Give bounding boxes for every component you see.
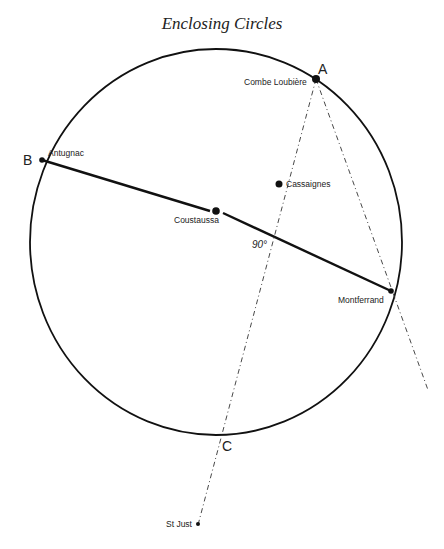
letter-a: A (318, 61, 328, 77)
label-coustaussa: Coustaussa (174, 215, 219, 225)
label-cassaignes: Cassaignes (286, 179, 330, 189)
angle-label: 90° (252, 239, 267, 250)
point-antugnac (39, 157, 45, 163)
line-a-to-montferrand (316, 79, 428, 390)
diameter-line-left (42, 160, 210, 211)
label-stjust: St Just (166, 519, 193, 529)
diameter-line-right (223, 213, 391, 291)
point-montferrand (388, 288, 394, 294)
label-montferrand: Montferrand (338, 295, 384, 305)
label-combe-loubiere: Combe Loubière (244, 77, 307, 87)
letter-c: C (222, 438, 232, 454)
diagram-canvas: A Combe Loubière B Antugnac Coustaussa C… (0, 0, 444, 549)
label-antugnac: Antugnac (48, 148, 85, 158)
line-a-to-stjust (198, 79, 316, 525)
enclosing-circle (30, 49, 402, 435)
point-coustaussa (212, 207, 220, 215)
point-cassaignes (276, 181, 283, 188)
letter-b: B (23, 152, 32, 168)
point-stjust (196, 522, 200, 526)
